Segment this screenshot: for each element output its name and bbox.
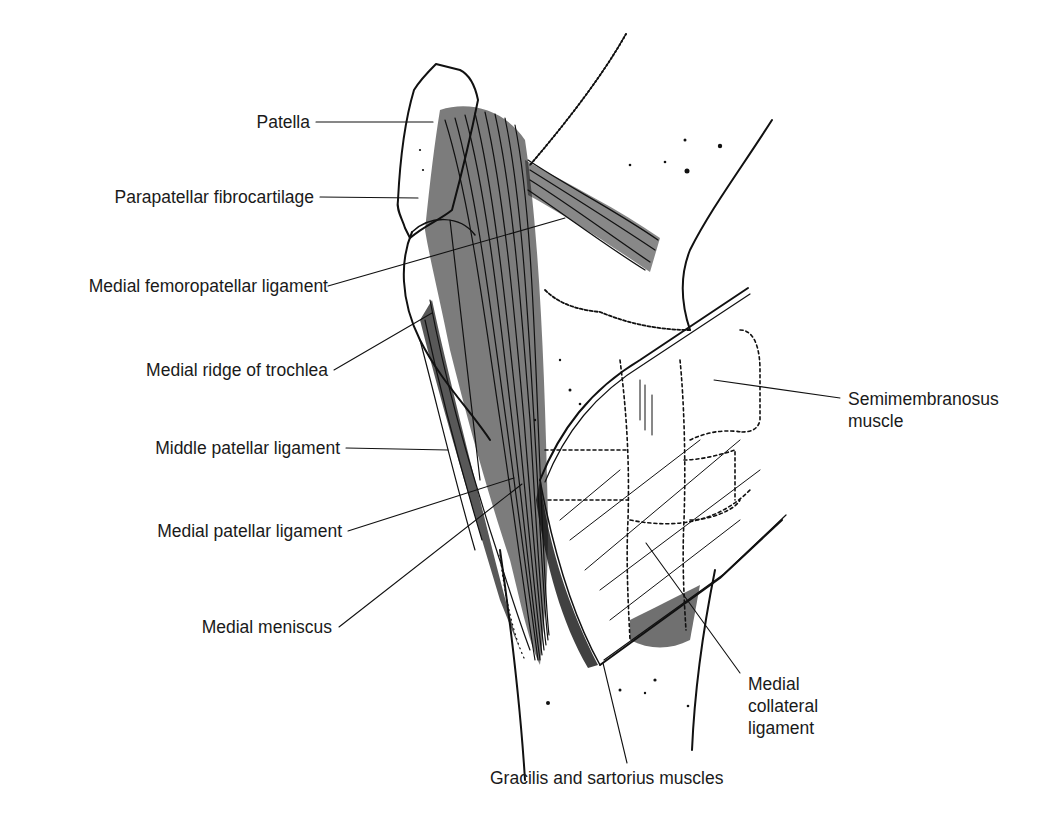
label-middle-patellar-ligament: Middle patellar ligament [60,437,340,459]
leader-medial-ridge-of-trochlea [334,313,432,370]
label-medial-femoropatellar-ligament: Medial femoropatellar ligament [20,275,328,297]
label-parapatellar-fibrocartilage: Parapatellar fibrocartilage [40,186,314,208]
label-medial-patellar-ligament: Medial patellar ligament [60,520,342,542]
label-medial-collateral-ligament: Medial collateral ligament [748,673,858,739]
leader-middle-patellar-ligament [346,448,448,450]
label-gracilis-and-sartorius-muscles: Gracilis and sartorius muscles [490,767,723,789]
leader-parapatellar-fibrocartilage [320,197,418,198]
label-patella: Patella [180,111,310,133]
label-mcl-line2: collateral [748,695,858,717]
label-mcl-line3: ligament [748,717,858,739]
label-medial-ridge-of-trochlea: Medial ridge of trochlea [60,359,328,381]
leader-medial-meniscus [339,484,522,627]
leader-semimembranosus-muscle [714,380,840,398]
anatomy-diagram: Patella Parapatellar fibrocartilage Medi… [0,0,1059,815]
leader-medial-patellar-ligament [348,478,514,531]
femur-outline [530,34,772,330]
label-semimembranosus-muscle: Semimembranosus muscle [848,388,1028,432]
deep-structure-outlines [545,330,760,640]
leader-gracilis-sartorius [603,663,627,763]
joint-line [545,290,690,330]
label-semimembranosus-line2: muscle [848,410,1028,432]
label-mcl-line1: Medial [748,673,858,695]
label-medial-meniscus: Medial meniscus [100,616,332,638]
label-semimembranosus-line1: Semimembranosus [848,388,1028,410]
